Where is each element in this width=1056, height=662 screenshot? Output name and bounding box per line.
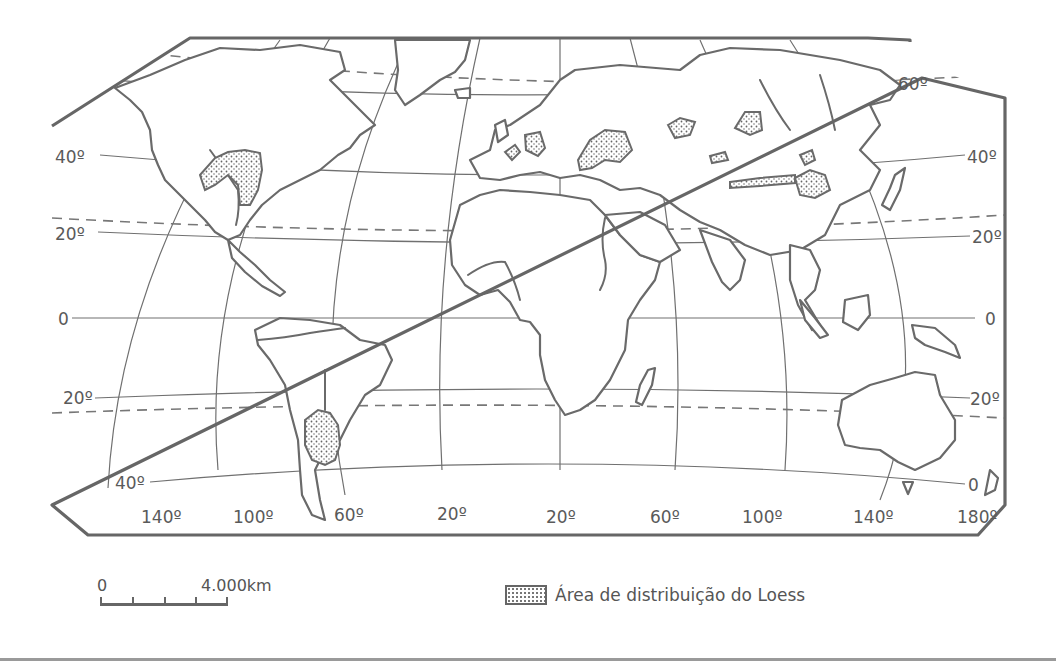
iceland (455, 88, 470, 98)
lon-label-140e: 140º (853, 507, 893, 527)
lat-label-20s-left: 20º (63, 388, 93, 408)
new-zealand (985, 470, 998, 495)
parallel-20s (95, 389, 970, 398)
north-america (115, 45, 375, 240)
lon-label-60e: 60º (650, 507, 680, 527)
lat-label-40s-left: 40º (115, 473, 145, 493)
lat-label-40s-right: 0 (968, 475, 979, 495)
world-map: 40º 20º 0 20º 40º 60º 40º 20º 0 20º 0 14… (0, 0, 1056, 662)
loess-northern-china (795, 170, 830, 198)
scale-end-label: 4.000km (201, 576, 272, 595)
lat-label-0-left: 0 (58, 309, 69, 329)
lon-label-100e: 100º (742, 507, 782, 527)
australia (838, 372, 955, 470)
lon-label-140w: 140º (141, 507, 181, 527)
lat-label-20s-right: 20º (970, 389, 1000, 409)
scale-tick (226, 597, 228, 605)
lat-label-20n-right: 20º (972, 227, 1002, 247)
central-america (228, 240, 285, 296)
new-guinea (912, 325, 960, 358)
scale-tick (195, 597, 197, 605)
scale-tick (164, 597, 166, 605)
parallel-40s (150, 464, 965, 484)
lat-label-20n-left: 20º (55, 224, 85, 244)
tasmania (903, 482, 913, 494)
legend-label: Área de distribuição do Loess (555, 585, 805, 605)
japan (882, 168, 905, 210)
lon-label-20e: 20º (546, 507, 576, 527)
bottom-divider (0, 658, 1056, 661)
scale-tick (100, 597, 102, 605)
lat-label-0-right: 0 (985, 309, 996, 329)
madagascar (636, 368, 655, 405)
scale-tick (132, 597, 134, 605)
borneo (843, 295, 870, 330)
lon-label-100w: 100º (233, 507, 273, 527)
scale-bar: 0 4.000km (97, 576, 247, 616)
lon-label-20w: 20º (437, 504, 467, 524)
lon-label-180: 180º (957, 507, 997, 527)
lat-label-60n-right: 60º (898, 74, 928, 94)
loess-dotted-swatch-icon (505, 585, 547, 605)
lat-label-40n-left: 40º (55, 147, 85, 167)
lon-label-60w: 60º (334, 505, 364, 525)
sumatra (800, 300, 828, 338)
scale-start-label: 0 (97, 576, 107, 595)
legend: Área de distribuição do Loess (505, 585, 805, 605)
lat-label-40n-right: 40º (967, 147, 997, 167)
landmasses (115, 40, 998, 520)
